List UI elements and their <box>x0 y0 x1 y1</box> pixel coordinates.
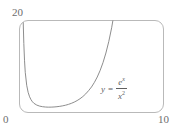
equation-annotation: y = ex x2 <box>101 76 127 101</box>
x-axis-min-label: 0 <box>3 114 9 125</box>
numerator-exponent: x <box>122 76 125 82</box>
x-axis-max-label: 10 <box>158 114 169 125</box>
y-axis-max-label: 20 <box>12 7 23 18</box>
equation-numerator: ex <box>116 76 127 88</box>
equation-lhs: y <box>101 84 105 94</box>
equation-denominator: x2 <box>116 89 127 101</box>
equation-fraction: ex x2 <box>116 76 127 101</box>
equation-equals: = <box>108 84 113 94</box>
denominator-exponent: 2 <box>122 90 125 96</box>
plot-frame <box>19 20 164 113</box>
plot-figure: 20 0 10 y = ex x2 <box>0 0 178 130</box>
